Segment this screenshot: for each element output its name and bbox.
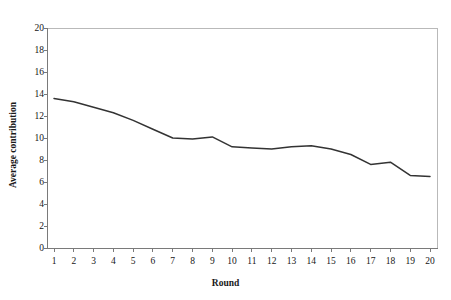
- series-line-0: [54, 98, 430, 176]
- plot-area: [0, 0, 451, 300]
- line-chart: Average contribution 02468101214161820 1…: [0, 0, 451, 300]
- axes: [44, 28, 438, 252]
- x-axis-title: Round: [0, 277, 451, 289]
- data-series: [54, 98, 430, 176]
